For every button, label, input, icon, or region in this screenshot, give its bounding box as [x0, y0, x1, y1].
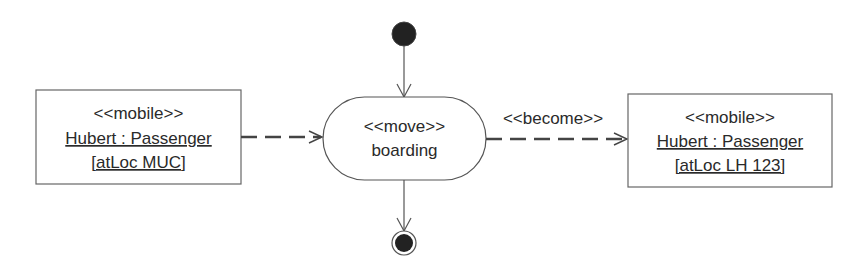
right-object-state: [atLoc LH 123]	[675, 156, 786, 175]
left-object-state: [atLoc MUC]	[91, 153, 185, 172]
activity-stereotype: <<move>>	[364, 117, 445, 136]
left-object-stereotype: <<mobile>>	[94, 104, 184, 123]
initial-node	[392, 22, 416, 46]
activity-boarding[interactable]	[323, 97, 486, 180]
right-object-name: Hubert : Passenger	[657, 132, 804, 151]
left-object-name: Hubert : Passenger	[65, 129, 212, 148]
right-object-stereotype: <<mobile>>	[685, 108, 775, 127]
activity-name: boarding	[371, 141, 437, 160]
become-label: <<become>>	[503, 109, 603, 128]
final-node	[395, 234, 413, 252]
activity-diagram: <<move>> boarding <<mobile>> Hubert : Pa…	[0, 0, 868, 268]
